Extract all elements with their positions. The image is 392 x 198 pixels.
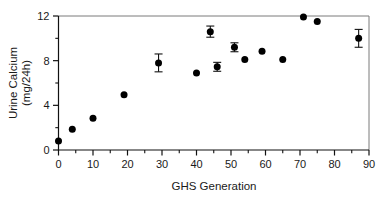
x-axis-tick-labels: 0102030405060708090 (55, 158, 375, 170)
data-point (214, 63, 221, 70)
x-tick-label: 60 (259, 158, 271, 170)
x-tick-label: 90 (363, 158, 375, 170)
plot-axis-lines (59, 16, 370, 150)
scatter-chart-figure: 0102030405060708090 04812 GHS Generation… (0, 0, 392, 198)
data-points (55, 14, 362, 145)
plot-frame-outline (59, 16, 370, 150)
y-axis-label-line2: (mg/24h) (20, 60, 32, 106)
data-point (69, 126, 76, 133)
y-tick-label: 0 (43, 144, 49, 156)
x-tick-label: 10 (87, 158, 99, 170)
y-tick-label: 12 (37, 10, 49, 22)
x-tick-label: 70 (294, 158, 306, 170)
x-tick-label: 0 (55, 158, 61, 170)
x-tick-label: 50 (225, 158, 237, 170)
y-tick-label: 8 (43, 55, 49, 67)
data-point (155, 59, 162, 66)
y-axis-tick-labels: 04812 (37, 10, 49, 156)
data-point (193, 69, 200, 76)
y-axis-label-line1: Urine Calcium (7, 47, 19, 119)
data-point (241, 56, 248, 63)
x-tick-label: 30 (156, 158, 168, 170)
data-point (314, 18, 321, 25)
x-axis-ticks (59, 150, 370, 156)
data-point (300, 14, 307, 21)
plot-area: 0102030405060708090 04812 GHS Generation… (0, 0, 392, 198)
data-point (207, 28, 214, 35)
x-tick-label: 80 (328, 158, 340, 170)
y-axis-ticks (53, 16, 59, 150)
data-point (55, 138, 62, 145)
error-bars (155, 26, 363, 72)
data-point (355, 35, 362, 42)
data-point (121, 91, 128, 98)
data-point (259, 48, 266, 55)
plot-frame (59, 16, 370, 150)
x-axis-label: GHS Generation (171, 180, 256, 192)
x-tick-label: 20 (121, 158, 133, 170)
data-point (90, 115, 97, 122)
data-point (279, 56, 286, 63)
data-point (231, 44, 238, 51)
x-tick-label: 40 (190, 158, 202, 170)
y-tick-label: 4 (43, 99, 49, 111)
